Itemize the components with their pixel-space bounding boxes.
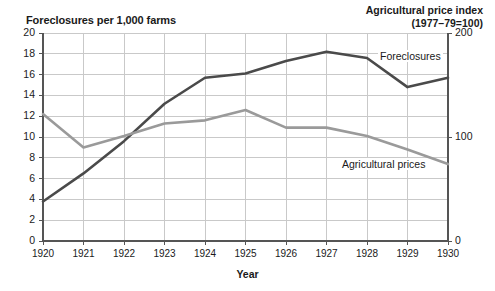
y-axis-left-tick-label: 2: [11, 214, 35, 224]
x-axis-tick-label: 1926: [263, 249, 309, 259]
y-axis-left-tick-label: 10: [11, 131, 35, 141]
series-annotation-foreclosures: Foreclosures: [378, 50, 443, 62]
x-axis-tick-label: 1927: [304, 249, 350, 259]
y-axis-left-tick-label: 4: [11, 193, 35, 203]
y-axis-left-tick-label: 16: [11, 69, 35, 79]
x-axis-tick-label: 1924: [182, 249, 228, 259]
y-axis-left-tick-label: 8: [11, 152, 35, 162]
x-axis-tick-label: 1928: [344, 249, 390, 259]
chart-container: Foreclosures per 1,000 farms Agricultura…: [0, 0, 495, 291]
x-axis-tick-label: 1930: [425, 249, 471, 259]
y-axis-left-tick-label: 6: [11, 173, 35, 183]
y-axis-right-tick-label: 100: [455, 131, 485, 141]
y-axis-left-tick-label: 18: [11, 48, 35, 58]
series-annotation-agricultural-prices: Agricultural prices: [340, 158, 427, 170]
x-axis-tick-label: 1920: [20, 249, 66, 259]
x-axis-tick-label: 1925: [223, 249, 269, 259]
x-axis-title: Year: [0, 268, 495, 280]
x-axis-tick-label: 1921: [61, 249, 107, 259]
x-axis-tick-label: 1922: [101, 249, 147, 259]
y-axis-left-tick-label: 12: [11, 110, 35, 120]
y-axis-left-tick-label: 14: [11, 89, 35, 99]
x-axis-tick-label: 1929: [385, 249, 431, 259]
y-axis-left-tick-label: 0: [11, 235, 35, 245]
y-axis-left-tick-label: 20: [11, 27, 35, 37]
x-axis-tick-label: 1923: [142, 249, 188, 259]
y-axis-right-tick-label: 0: [455, 235, 485, 245]
y-axis-right-tick-label: 200: [455, 27, 485, 37]
